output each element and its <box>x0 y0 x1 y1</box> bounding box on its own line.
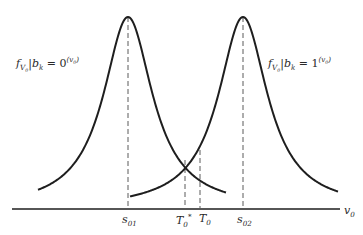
t0-label: T0 <box>199 213 211 226</box>
t0-star-label: T0* <box>176 213 191 228</box>
right-curve-label: fV0|bk = 1(v0) <box>268 56 331 74</box>
right-density-curve <box>130 17 338 196</box>
v0-axis-label: v0 <box>344 205 355 218</box>
density-diagram <box>0 0 363 235</box>
left-density-curve <box>38 17 226 193</box>
s01-label: s01 <box>122 214 137 227</box>
left-curve-label: fV0|bk = 0(v0) <box>16 56 79 74</box>
s02-label: s02 <box>237 214 252 227</box>
